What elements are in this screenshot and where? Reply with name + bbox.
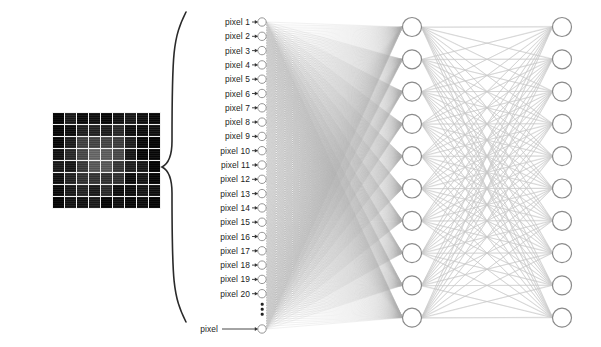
flatten-brace <box>0 0 601 347</box>
flatten-brace-path <box>162 12 186 322</box>
neural-network-figure: pixel 1pixel 2pixel 3pixel 4pixel 5pixel… <box>0 0 601 347</box>
